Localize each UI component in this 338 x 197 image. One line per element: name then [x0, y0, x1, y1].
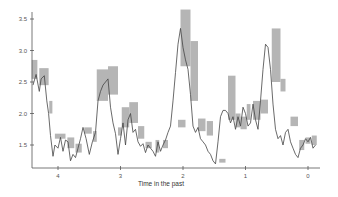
interval-box	[291, 117, 299, 126]
interval-box	[247, 104, 251, 120]
interval-box	[207, 121, 213, 135]
interval-box	[191, 41, 199, 101]
x-tick-label: 4	[56, 173, 60, 179]
interval-box	[138, 126, 144, 139]
interval-box	[272, 28, 281, 82]
interval-box	[198, 119, 206, 132]
y-tick-label: 3.0	[19, 48, 28, 54]
x-tick-label: 1	[244, 173, 248, 179]
interval-box	[49, 101, 52, 114]
y-tick-label: 2.0	[19, 111, 28, 117]
interval-box	[84, 127, 92, 133]
x-axis-title: Time in the past	[138, 180, 184, 188]
interval-box	[97, 69, 108, 101]
interval-box	[219, 159, 225, 163]
y-tick-label: 2.5	[19, 79, 28, 85]
interval-box	[261, 100, 269, 114]
interval-box	[93, 131, 97, 142]
x-tick-label: 0	[306, 173, 310, 179]
y-tick-label: 1.5	[19, 142, 28, 148]
x-tick-label: 3	[119, 173, 123, 179]
interval-box	[146, 142, 152, 148]
x-tick-label: 2	[181, 173, 185, 179]
interval-box	[178, 120, 186, 128]
chart: 1.52.02.53.03.5 43210 Time in the past	[0, 0, 338, 197]
interval-box	[228, 76, 236, 120]
interval-box	[108, 66, 118, 94]
interval-box	[312, 136, 317, 145]
y-tick-label: 3.5	[19, 16, 28, 22]
interval-box	[281, 79, 286, 92]
